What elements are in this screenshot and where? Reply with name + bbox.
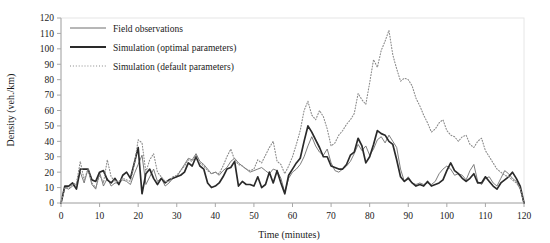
- y-tick-label-100: 100: [40, 44, 55, 54]
- y-tick-label-80: 80: [45, 75, 55, 85]
- y-tick-label-0: 0: [49, 198, 54, 208]
- x-tick-label-60: 60: [288, 211, 298, 221]
- x-tick-label-120: 120: [517, 211, 532, 221]
- x-tick-label-90: 90: [404, 211, 414, 221]
- legend-label-2: Simulation (default parameters): [113, 62, 234, 73]
- legend-label-0: Field observations: [113, 24, 183, 34]
- y-tick-label-60: 60: [45, 106, 55, 116]
- x-tick-label-20: 20: [133, 211, 143, 221]
- y-tick-label-50: 50: [45, 121, 55, 131]
- y-tick-label-30: 30: [45, 152, 55, 162]
- legend-label-1: Simulation (optimal parameters): [113, 43, 236, 54]
- y-tick-label-90: 90: [45, 60, 55, 70]
- y-tick-label-110: 110: [40, 29, 54, 39]
- density-time-line-chart: 0102030405060708090100110120 01020304050…: [0, 0, 550, 243]
- y-tick-label-20: 20: [45, 168, 55, 178]
- x-tick-label-0: 0: [59, 211, 64, 221]
- x-tick-label-50: 50: [249, 211, 259, 221]
- x-tick-label-100: 100: [440, 211, 455, 221]
- y-tick-label-70: 70: [45, 90, 55, 100]
- x-tick-label-110: 110: [478, 211, 492, 221]
- y-tick-label-120: 120: [40, 13, 55, 23]
- x-tick-label-70: 70: [326, 211, 336, 221]
- y-tick-label-40: 40: [45, 137, 55, 147]
- x-tick-label-30: 30: [172, 211, 182, 221]
- y-axis-title: Density (veh./km): [5, 74, 17, 147]
- x-tick-label-40: 40: [211, 211, 221, 221]
- x-tick-label-80: 80: [365, 211, 375, 221]
- chart-background: [0, 0, 550, 243]
- chart-container: 0102030405060708090100110120 01020304050…: [0, 0, 550, 243]
- x-tick-label-10: 10: [95, 211, 105, 221]
- y-tick-label-10: 10: [45, 183, 55, 193]
- x-axis-title: Time (minutes): [258, 229, 320, 241]
